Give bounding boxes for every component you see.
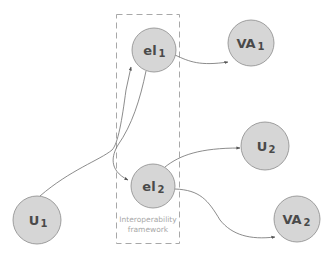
svg-text:2: 2: [158, 184, 165, 195]
svg-text:VA: VA: [282, 212, 301, 227]
node-u2[interactable]: U 2: [241, 122, 289, 170]
svg-text:U: U: [257, 139, 268, 154]
edge-el1-va1[interactable]: [175, 55, 228, 64]
framework-label-line1: Interoperability: [119, 215, 177, 224]
svg-text:1: 1: [41, 218, 48, 229]
svg-text:VA: VA: [236, 36, 255, 51]
node-el1[interactable]: el 1: [132, 28, 176, 72]
edge-el2-va2[interactable]: [175, 189, 275, 238]
svg-text:el: el: [143, 43, 156, 58]
framework-label-line2: framework: [128, 225, 169, 234]
edge-el2-u2[interactable]: [165, 148, 240, 167]
node-va1[interactable]: VA 1: [228, 20, 274, 66]
edge-el1-el2[interactable]: [113, 71, 146, 180]
svg-text:1: 1: [159, 48, 166, 59]
node-el2[interactable]: el 2: [131, 164, 175, 208]
svg-text:el: el: [142, 179, 155, 194]
svg-text:U: U: [29, 213, 40, 228]
svg-text:2: 2: [269, 144, 276, 155]
node-va2[interactable]: VA 2: [274, 196, 320, 242]
svg-text:1: 1: [258, 41, 265, 52]
svg-text:2: 2: [304, 217, 311, 228]
edge-u1-el1[interactable]: [40, 67, 131, 196]
node-u1[interactable]: U 1: [13, 196, 61, 244]
edges: [40, 55, 275, 238]
diagram-canvas: Interoperability framework el 1 VA 1 el …: [0, 0, 336, 254]
